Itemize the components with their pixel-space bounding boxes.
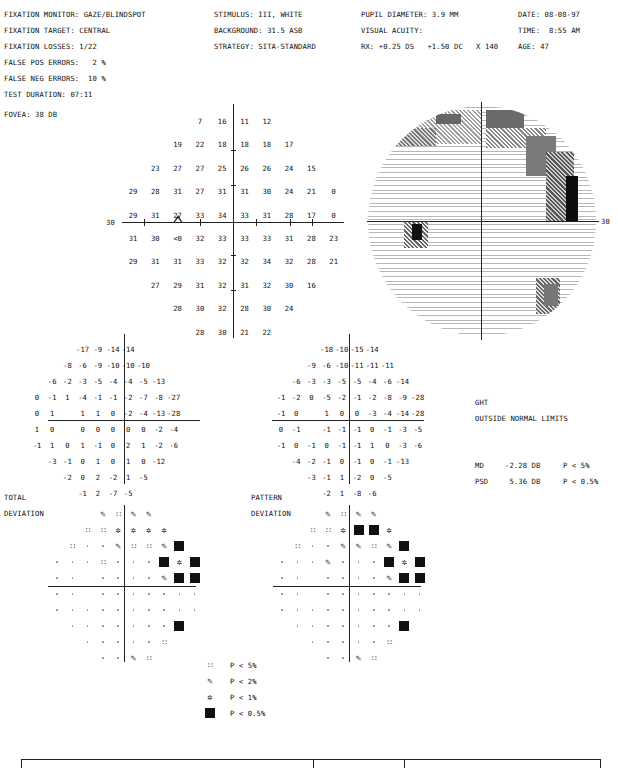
grid-cell: -28 bbox=[163, 409, 185, 418]
grid-cell: -6 bbox=[361, 489, 383, 498]
grid-cell: 33 bbox=[256, 234, 278, 243]
p05-solid-square-icon bbox=[186, 555, 204, 569]
grid-cell: 21 bbox=[323, 257, 345, 266]
grid-cell: 12 bbox=[256, 117, 278, 126]
grid-cell: 18 bbox=[256, 140, 278, 149]
axis-tick bbox=[231, 150, 236, 151]
legend-label: P < 0.5% bbox=[230, 709, 265, 718]
p5-dots-icon: :: bbox=[365, 651, 383, 665]
grid-cell: -6 bbox=[407, 441, 429, 450]
horizontal-axis bbox=[48, 420, 200, 421]
grid-cell: 30 bbox=[278, 281, 300, 290]
grid-cell: 27 bbox=[189, 187, 211, 196]
grid-cell: 0 bbox=[41, 425, 63, 434]
horizontal-axis bbox=[48, 586, 196, 587]
date: DATE: 08-08-97 bbox=[518, 10, 580, 19]
horizontal-axis bbox=[272, 420, 424, 421]
grid-cell: 32 bbox=[211, 281, 233, 290]
vertical-axis bbox=[124, 505, 125, 662]
grid-cell: 17 bbox=[278, 140, 300, 149]
grid-cell: 32 bbox=[234, 257, 256, 266]
grid-cell: -28 bbox=[407, 409, 429, 418]
p1-pattern-icon: ✲ bbox=[155, 523, 173, 537]
grid-cell: -28 bbox=[407, 393, 429, 402]
normal-dot-icon bbox=[63, 587, 81, 601]
grid-cell: 31 bbox=[234, 281, 256, 290]
grid-cell: 31 bbox=[234, 187, 256, 196]
pattern-deviation-label-2: DEVIATION bbox=[251, 509, 291, 518]
p05-solid-square-icon bbox=[201, 706, 219, 720]
grid-cell: 29 bbox=[122, 187, 144, 196]
grid-cell: 29 bbox=[122, 257, 144, 266]
footer-divider bbox=[404, 760, 405, 768]
grid-cell: 29 bbox=[122, 211, 144, 220]
grid-cell: 28 bbox=[167, 304, 189, 313]
grid-cell: -5 bbox=[132, 473, 154, 482]
grid-cell: 30 bbox=[189, 304, 211, 313]
test-duration: TEST DURATION: 07:11 bbox=[4, 90, 93, 99]
ght-label: GHT bbox=[475, 398, 488, 407]
grid-cell: 27 bbox=[189, 164, 211, 173]
total-deviation-label-1: TOTAL bbox=[4, 493, 26, 502]
grid-cell: 18 bbox=[211, 140, 233, 149]
grid-cell: 34 bbox=[211, 211, 233, 220]
vertical-axis bbox=[349, 334, 350, 484]
grid-cell: 30 bbox=[211, 328, 233, 337]
p1-pattern-icon: ✲ bbox=[201, 690, 219, 704]
grid-cell: -12 bbox=[148, 457, 170, 466]
grid-cell: 31 bbox=[122, 234, 144, 243]
axis-tick bbox=[312, 219, 313, 226]
age: AGE: 47 bbox=[518, 42, 549, 51]
p5-dots-icon: :: bbox=[140, 651, 158, 665]
vertical-axis bbox=[124, 334, 125, 484]
axis-tick bbox=[200, 219, 201, 226]
axis-tick bbox=[290, 219, 291, 226]
grid-cell: -10 bbox=[132, 361, 154, 370]
fixation-target: FIXATION TARGET: CENTRAL bbox=[4, 26, 110, 35]
grid-cell: 28 bbox=[144, 187, 166, 196]
grid-cell: 27 bbox=[167, 164, 189, 173]
axis-tick bbox=[231, 185, 236, 186]
grid-cell: 18 bbox=[234, 140, 256, 149]
p5-dots-icon: :: bbox=[201, 658, 219, 672]
normal-dot-icon bbox=[411, 587, 429, 601]
grid-cell: 32 bbox=[278, 257, 300, 266]
false-neg-errors: FALSE NEG ERRORS: 10 % bbox=[4, 74, 106, 83]
axis-tick bbox=[231, 255, 236, 256]
horizontal-axis bbox=[122, 222, 344, 223]
grid-cell: 32 bbox=[189, 234, 211, 243]
p2-pattern-icon: ✎ bbox=[201, 674, 219, 688]
grid-cell: 15 bbox=[300, 164, 322, 173]
p5-dots-icon: :: bbox=[380, 635, 398, 649]
rx: RX: +0.25 DS +1.50 DC X 140 bbox=[361, 42, 498, 51]
p2-pattern-icon: ✎ bbox=[140, 507, 158, 521]
grid-cell: 31 bbox=[278, 234, 300, 243]
grid-cell: 28 bbox=[189, 328, 211, 337]
grid-cell: 32 bbox=[211, 257, 233, 266]
p05-solid-square-icon bbox=[170, 539, 188, 553]
grid-cell: 27 bbox=[144, 281, 166, 290]
grid-cell: -13 bbox=[148, 377, 170, 386]
vertical-axis bbox=[349, 505, 350, 662]
psd-value: 5.36 DB bbox=[505, 477, 540, 486]
horizontal-axis bbox=[273, 586, 421, 587]
footer-divider bbox=[313, 760, 314, 768]
grid-cell: 31 bbox=[211, 187, 233, 196]
normal-dot-icon bbox=[186, 587, 204, 601]
md-label: MD bbox=[475, 461, 484, 470]
normal-dot-icon bbox=[288, 587, 306, 601]
grid-cell: -13 bbox=[392, 457, 414, 466]
grid-cell: 30 bbox=[256, 187, 278, 196]
grid-cell: 31 bbox=[256, 211, 278, 220]
grid-cell: 34 bbox=[256, 257, 278, 266]
ght-result: OUTSIDE NORMAL LIMITS bbox=[475, 414, 568, 423]
p05-solid-square-icon bbox=[395, 539, 413, 553]
normal-dot-icon bbox=[288, 571, 306, 585]
grid-cell: 21 bbox=[300, 187, 322, 196]
p05-solid-square-icon bbox=[411, 555, 429, 569]
vertical-axis bbox=[233, 104, 234, 338]
grid-cell: -14 bbox=[117, 345, 139, 354]
grid-cell: 24 bbox=[278, 304, 300, 313]
grid-cell: 27 bbox=[167, 211, 189, 220]
p05-solid-square-icon bbox=[186, 571, 204, 585]
